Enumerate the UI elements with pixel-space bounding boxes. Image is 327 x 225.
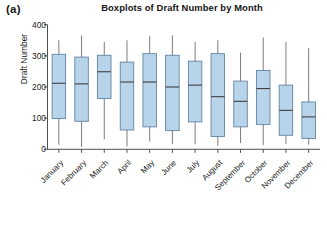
boxplot-box [302, 48, 316, 145]
boxplot-box [256, 37, 270, 145]
boxplot-box [98, 42, 112, 139]
boxplot-box [166, 35, 180, 144]
boxplot-box [188, 42, 202, 144]
y-tick-label: 400 [20, 20, 46, 30]
boxplot-box [52, 40, 66, 144]
boxplot-box [75, 36, 89, 147]
boxplot-box [211, 40, 225, 145]
y-tick-label: 200 [20, 82, 46, 92]
boxplot-box [120, 40, 134, 146]
boxplot-box [234, 53, 248, 143]
boxplot-box [143, 36, 157, 141]
boxplot-box [279, 42, 293, 144]
y-tick-label: 300 [20, 51, 46, 61]
y-tick-label: 100 [20, 113, 46, 123]
y-tick-label: 0 [20, 144, 46, 154]
chart-title: Boxplots of Draft Number by Month [48, 2, 316, 13]
figure-panel: (a) Boxplots of Draft Number by Month Dr… [0, 0, 327, 225]
